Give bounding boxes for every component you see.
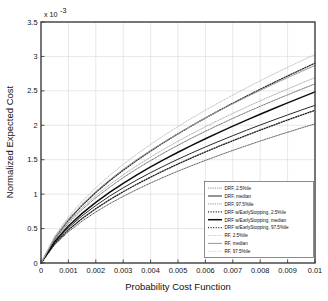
legend-label-6[interactable]: RF, 2.5%ile [225,233,249,238]
legend-label-1[interactable]: DRF, median [225,194,252,199]
x-tick-label: 0.008 [251,266,270,275]
x-tick-label: 0.001 [59,266,78,275]
x-tick-label: 0.007 [224,266,243,275]
y-tick-label: 0.5 [27,224,37,233]
legend-label-0[interactable]: DRF, 2.5%ile [225,186,252,191]
x-tick-label: 0.004 [141,266,160,275]
y-tick-label: 2.5 [27,86,37,95]
y-axis-label: Normalized Expected Cost [4,85,15,198]
y-tick-label: 1 [33,190,37,199]
y-tick-label: 3.5 [27,18,37,27]
y-tick-label: 3 [33,52,37,61]
x-tick-label: 0 [39,266,43,275]
x-tick-label: 0.006 [196,266,215,275]
legend-label-3[interactable]: DRF w/EarlyStopping, 2.5%ile [225,210,287,215]
chart-canvas: 00.0010.0020.0030.0040.0050.0060.0070.00… [0,0,328,301]
y-tick-label: 0 [33,259,37,268]
x-tick-label: 0.003 [114,266,133,275]
legend-label-8[interactable]: RF, 97.5%ile [225,249,251,254]
y-axis-multiplier-exponent: -3 [60,6,66,15]
y-tick-label: 2 [33,121,37,130]
x-tick-label: 0.005 [169,266,188,275]
legend-label-7[interactable]: RF, median [225,241,249,246]
x-tick-label: 0.01 [308,266,322,275]
legend-label-5[interactable]: DRF w/EarlyStopping, 97.5%ile [225,225,290,230]
legend-label-4[interactable]: DRF w/EarlyStopping, median [225,218,287,223]
x-tick-label: 0.002 [87,266,106,275]
axis-titles: x 10 -3 Probability Cost Function Normal… [4,6,231,292]
legend-label-2[interactable]: DRF, 97.5%ile [225,202,255,207]
legend[interactable]: DRF, 2.5%ileDRF, medianDRF, 97.5%ileDRF … [205,182,314,258]
x-tick-label: 0.009 [278,266,297,275]
x-axis-label: Probability Cost Function [125,281,231,292]
y-axis-multiplier: x 10 [44,10,58,19]
figure: 00.0010.0020.0030.0040.0050.0060.0070.00… [0,0,328,301]
y-tick-label: 1.5 [27,155,37,164]
